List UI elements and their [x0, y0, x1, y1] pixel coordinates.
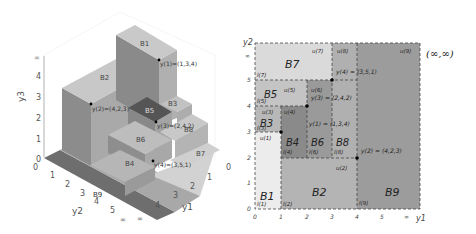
y3-tick-3: 3 [36, 93, 41, 102]
svg-text:l(1): l(1) [257, 201, 266, 207]
svg-text:B4: B4 [286, 137, 299, 148]
svg-text:1: 1 [279, 213, 283, 220]
svg-text:l(5): l(5) [257, 98, 266, 104]
svg-text:l(2): l(2) [283, 201, 292, 207]
y2-axis-label: y2 [242, 38, 253, 47]
box-b3-label: B3 [168, 100, 177, 108]
svg-text:4: 4 [355, 213, 359, 220]
box-b1-label: B1 [140, 40, 149, 48]
svg-text:u(4): u(4) [284, 109, 295, 115]
box-b7-label: B7 [196, 150, 205, 158]
svg-text:4: 4 [94, 197, 99, 206]
point-y4-label: y(4) = (3,5,1) [335, 68, 377, 76]
svg-text:3: 3 [330, 213, 334, 220]
svg-text:0: 0 [247, 205, 251, 212]
corner-label: (∞,∞) [426, 48, 454, 59]
y3-axis: ∞ 4 3 2 1 0 y3 [16, 54, 44, 164]
svg-text:l(4): l(4) [283, 149, 292, 155]
y1-axis-label: y1 [182, 202, 193, 212]
point-y3-label: y(3) = (2,4,2) [310, 94, 352, 102]
svg-text:0: 0 [33, 163, 38, 172]
svg-text:3: 3 [247, 128, 251, 135]
svg-text:B2: B2 [312, 186, 327, 199]
svg-text:4: 4 [155, 201, 160, 210]
svg-text:∞: ∞ [137, 215, 143, 223]
point-y2-marker [355, 156, 359, 160]
box-b4-label: B4 [125, 160, 135, 168]
box-b2-label: B2 [100, 74, 109, 82]
svg-text:y(4)=(3,5,1): y(4)=(3,5,1) [154, 161, 191, 169]
svg-text:2: 2 [305, 213, 309, 220]
y3-tick-2: 2 [36, 114, 41, 123]
svg-text:∞: ∞ [245, 52, 250, 59]
point-y3: y(3)=(2,4,2) [155, 121, 194, 130]
svg-text:y(2)=(4,2,3): y(2)=(4,2,3) [92, 105, 129, 113]
svg-text:0: 0 [253, 213, 257, 220]
svg-text:u(5): u(5) [284, 87, 295, 93]
svg-text:1: 1 [247, 179, 251, 186]
svg-text:B9: B9 [385, 186, 400, 199]
point-y4-marker [330, 78, 334, 82]
y2-axis: y2 ∞ 5 4 3 2 1 0 [242, 38, 253, 212]
point-y1: y(1)=(1,3,4) [158, 59, 197, 68]
svg-text:1: 1 [207, 173, 212, 182]
svg-text:2: 2 [65, 180, 70, 189]
svg-text:∞: ∞ [120, 216, 126, 224]
svg-text:5: 5 [247, 76, 251, 83]
svg-text:l(3): l(3) [257, 125, 266, 131]
svg-text:u(8): u(8) [337, 48, 348, 54]
y3-axis-label: y3 [16, 91, 26, 102]
svg-text:2: 2 [190, 182, 195, 191]
svg-text:5: 5 [380, 213, 384, 220]
y1-axis-label: y1 [415, 214, 426, 223]
svg-text:l(9): l(9) [359, 200, 368, 206]
svg-text:l(7): l(7) [257, 72, 266, 78]
3d-plot-canvas: ∞ 4 3 2 1 0 y3 B2 B1 B5 B3 [0, 0, 240, 234]
svg-text:0: 0 [226, 163, 231, 172]
svg-text:u(3): u(3) [262, 109, 273, 115]
svg-text:3: 3 [80, 189, 85, 198]
svg-text:B8: B8 [336, 137, 349, 148]
y3-tick-inf: ∞ [34, 54, 40, 62]
point-y1-label: y(1) = (1,3,4) [308, 120, 350, 128]
svg-text:u(6): u(6) [311, 87, 322, 93]
point-y1-marker [279, 130, 283, 134]
point-y2: y(2)=(4,2,3) [90, 103, 129, 113]
3d-box-plot: ∞ 4 3 2 1 0 y3 B2 B1 B5 B3 [0, 0, 240, 234]
svg-text:u(1): u(1) [260, 135, 271, 141]
svg-text:B7: B7 [285, 58, 300, 71]
y3-tick-4: 4 [36, 72, 41, 81]
point-y3-marker [305, 104, 309, 108]
svg-text:u(2): u(2) [336, 165, 347, 171]
svg-text:∞: ∞ [404, 213, 409, 220]
box-b6-label: B6 [136, 136, 146, 144]
svg-text:y(1)=(1,3,4): y(1)=(1,3,4) [160, 60, 197, 68]
point-y4: y(4)=(3,5,1) [152, 160, 191, 169]
svg-text:y(3)=(2,4,2): y(3)=(2,4,2) [157, 122, 194, 130]
svg-text:u(9): u(9) [400, 48, 411, 54]
y2-axis-label: y2 [72, 206, 83, 216]
svg-text:3: 3 [173, 191, 178, 200]
svg-text:l(8): l(8) [334, 149, 343, 155]
svg-text:u(7): u(7) [312, 48, 323, 54]
2d-plot-canvas: y(1) = (1,3,4) y(2) = (4,2,3) y(3) = (2,… [240, 0, 476, 234]
svg-text:5: 5 [110, 206, 115, 215]
svg-text:l(6): l(6) [309, 149, 318, 155]
box-b5-label: B5 [145, 107, 154, 115]
y3-tick-1: 1 [36, 135, 41, 144]
y1-axis: 0 1 2 3 4 5 ∞ y1 [253, 213, 426, 223]
svg-text:2: 2 [247, 154, 251, 161]
svg-text:4: 4 [247, 102, 251, 109]
2d-region-plot: y(1) = (1,3,4) y(2) = (4,2,3) y(3) = (2,… [240, 0, 476, 234]
svg-text:1: 1 [50, 171, 55, 180]
svg-text:B6: B6 [311, 137, 324, 148]
point-y2-label: y(2) = (4,2,3) [360, 147, 402, 155]
